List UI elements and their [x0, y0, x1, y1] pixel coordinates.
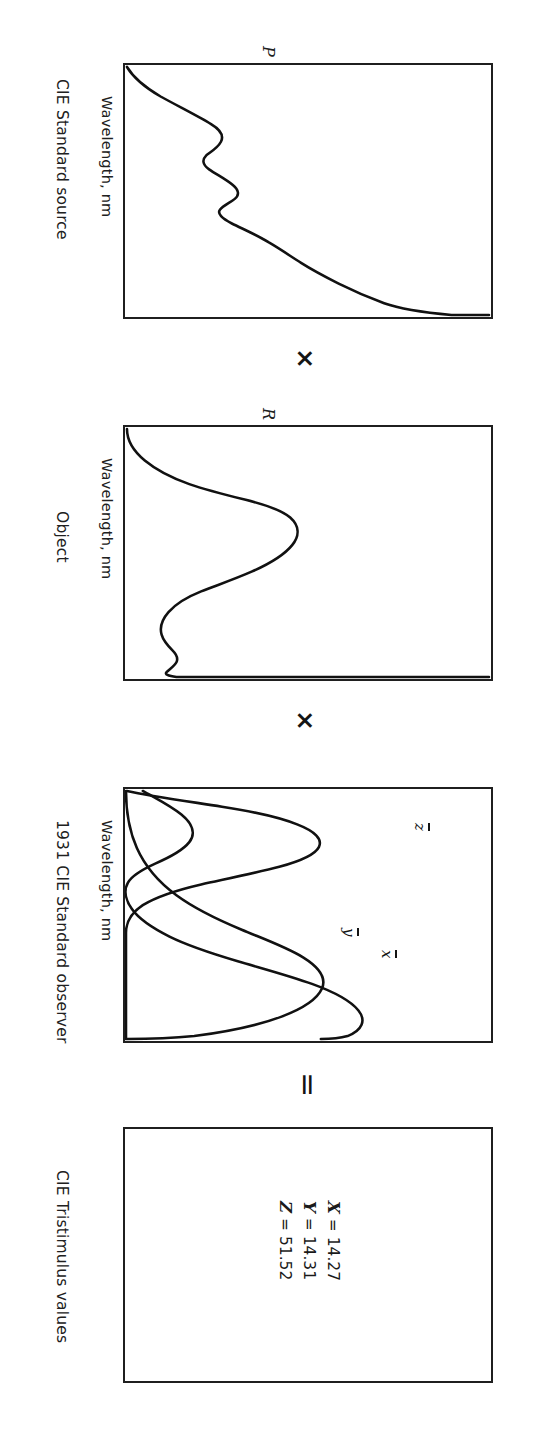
figure-rotation-wrapper: P Wavelength, nm CIE Standard source × R…: [0, 0, 533, 1447]
x-bar-series-label: x: [380, 950, 398, 958]
object-panel-caption: Object: [53, 511, 71, 563]
z-bar-series-label: z: [413, 823, 431, 831]
x-bar-curve: [126, 791, 363, 1039]
tristimulus-z-value: 51.52: [276, 1236, 294, 1280]
panel-cie-tristimulus-values: X = 14.27 Y = 14.31 Z = 51.52: [123, 1127, 493, 1383]
tristimulus-x-value: 14.27: [324, 1237, 342, 1281]
tristimulus-x-symbol: X: [324, 1201, 343, 1214]
source-y-axis-label: P: [259, 46, 278, 57]
object-x-axis-label: Wavelength, nm: [99, 458, 115, 579]
y-bar-series-label: y: [342, 928, 360, 936]
panel-object: [123, 425, 493, 681]
z-bar-curve: [126, 791, 320, 1039]
tristimulus-y-value: 14.31: [300, 1236, 318, 1280]
tristimulus-row-x: X = 14.27: [321, 1201, 345, 1281]
tristimulus-x-equals: =: [324, 1219, 342, 1232]
observer-x-axis-label: Wavelength, nm: [99, 820, 115, 941]
panel-cie-standard-observer: [123, 787, 493, 1043]
equals-operator: =: [293, 1072, 323, 1097]
tristimulus-z-equals: =: [276, 1218, 294, 1231]
cie-tristimulus-figure: P Wavelength, nm CIE Standard source × R…: [0, 0, 533, 1447]
panel-cie-standard-source: [123, 63, 493, 319]
y-bar-letter: y: [341, 928, 359, 936]
source-panel-caption: CIE Standard source: [53, 79, 71, 240]
tristimulus-z-symbol: Z: [276, 1201, 295, 1213]
object-reflectance-curve: [127, 429, 489, 677]
tristimulus-row-z: Z = 51.52: [273, 1201, 297, 1281]
multiply-operator-1: ×: [293, 348, 318, 369]
tristimulus-row-y: Y = 14.31: [297, 1201, 321, 1281]
object-reflectance-plot: [125, 427, 491, 679]
z-bar-letter: z: [412, 823, 430, 831]
tristimulus-result-block: X = 14.27 Y = 14.31 Z = 51.52: [273, 1201, 345, 1281]
observer-color-matching-plot: [125, 789, 491, 1041]
tristimulus-y-equals: =: [300, 1218, 318, 1231]
source-x-axis-label: Wavelength, nm: [99, 96, 115, 217]
x-bar-letter: x: [379, 950, 397, 958]
result-panel-caption: CIE Tristimulus values: [53, 1170, 71, 1343]
source-spectrum-plot: [125, 65, 491, 317]
y-bar-curve: [126, 791, 323, 1039]
object-y-axis-label: R: [259, 408, 278, 420]
observer-panel-caption: 1931 CIE Standard observer: [53, 820, 71, 1044]
multiply-operator-2: ×: [293, 710, 318, 731]
source-power-curve: [127, 67, 489, 315]
tristimulus-y-symbol: Y: [300, 1201, 319, 1213]
